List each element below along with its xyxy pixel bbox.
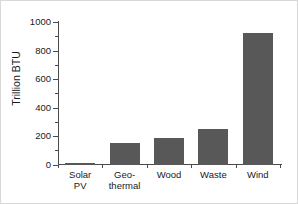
bar-solar-pv [65,163,95,165]
y-tick-label: 0 [15,160,51,170]
x-tick [58,165,59,168]
bar-wind [243,33,273,165]
bar-waste [198,129,228,165]
x-tick [147,165,148,168]
x-tick [236,165,237,168]
x-tick [191,165,192,168]
y-tick-label: 1000 [15,17,51,27]
x-tick [102,165,103,168]
x-axis-label-waste: Waste [191,169,235,180]
x-axis-label-geo-thermal: Geo- thermal [102,169,146,191]
plot-area [58,22,280,165]
bar-geo-thermal [110,143,140,165]
x-tick [280,165,281,168]
x-axis-label-wind: Wind [236,169,280,180]
x-axis-label-wood: Wood [147,169,191,180]
y-tick-label: 600 [15,74,51,84]
bar-wood [154,138,184,165]
y-tick-label: 400 [15,103,51,113]
x-axis-label-solar-pv: Solar PV [58,169,102,191]
y-tick-label: 800 [15,46,51,56]
y-tick-label: 200 [15,131,51,141]
chart-figure: Trillion BTU 02004006008001000 Solar PVG… [0,0,298,204]
